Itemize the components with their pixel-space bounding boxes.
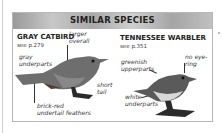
page-mark: [218, 32, 220, 34]
tennessee-warbler-illustration: [125, 65, 210, 121]
panel-header: SIMILAR SPECIES: [13, 13, 212, 29]
page-edge: [2, 0, 3, 133]
species-name-warbler: TENNESSEE WARBLER: [120, 34, 206, 42]
label-no-eye: no eye-: [185, 53, 207, 60]
label-greenish: greenish: [121, 58, 147, 65]
panel-title: SIMILAR SPECIES: [13, 15, 212, 25]
label-undertail: undertail feathers: [37, 109, 91, 116]
gray-catbird-illustration: [13, 43, 113, 105]
similar-species-panel: SIMILAR SPECIES GRAY CATBIRD see p.279 l…: [12, 12, 213, 122]
species-name-catbird: GRAY CATBIRD: [17, 33, 74, 41]
page-ref-warbler: see p.351: [120, 43, 147, 49]
label-larger: larger: [69, 30, 87, 37]
